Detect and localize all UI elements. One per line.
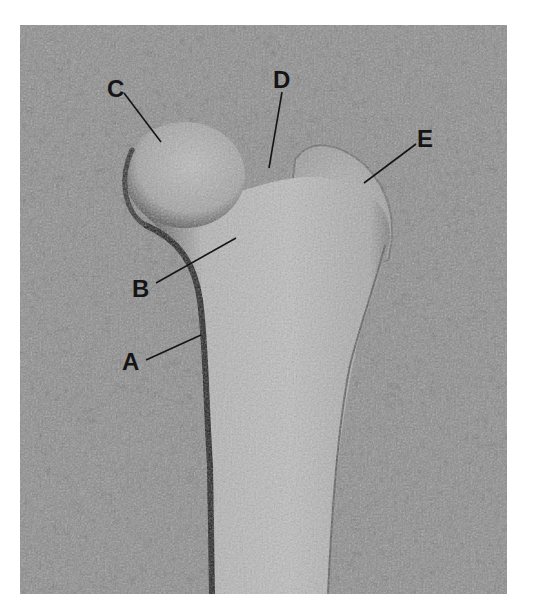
label-c: C xyxy=(107,77,124,101)
label-a: A xyxy=(122,350,139,374)
bone-photograph: C D E B A xyxy=(20,25,507,594)
photo-canvas xyxy=(20,25,507,594)
label-d: D xyxy=(273,68,290,92)
label-e: E xyxy=(417,127,433,151)
photo-grain xyxy=(20,25,507,594)
label-b: B xyxy=(132,277,149,301)
